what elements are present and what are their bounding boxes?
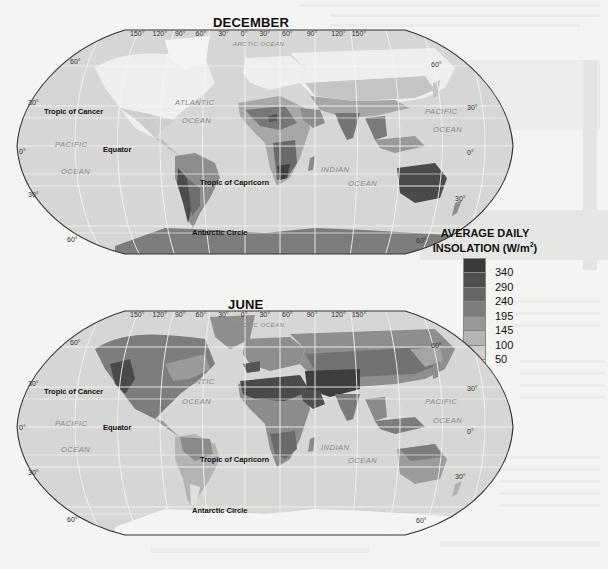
june-atlantic-label: ATLANTIC <box>175 377 215 386</box>
june-tropic-of-cancer-label: Tropic of Cancer <box>44 387 103 396</box>
december-atlantic-ocean-label: OCEAN <box>182 116 211 125</box>
june-lat-0-right: 0° <box>467 428 474 435</box>
december-equator-label: Equator <box>103 145 131 154</box>
june-equator-label: Equator <box>103 423 131 432</box>
june-longitude-labels: 150°120°90°60°30°0°30°60°90°120°150° <box>130 311 366 318</box>
june-pacific-east-label: PACIFIC <box>425 397 458 406</box>
december-lat-60n-right: 60° <box>431 61 442 68</box>
june-antarctic-circle-label: Antarctic Circle <box>192 506 247 515</box>
december-lat-30n-right: 30° <box>467 104 478 111</box>
december-lat-60s-left: 60° <box>67 236 78 243</box>
june-lat-30n-right: 30° <box>467 385 478 392</box>
december-pacific-east-label: PACIFIC <box>425 107 458 116</box>
june-tropic-of-capricorn-label: Tropic of Capricorn <box>200 455 269 464</box>
june-lat-0-left: 0° <box>19 424 26 431</box>
december-map: 150°120°90°60°30°0°30°60°90°120°150° 60°… <box>15 28 515 256</box>
june-indian-ocean-label: OCEAN <box>348 456 377 465</box>
legend-swatch-above-340 <box>463 258 486 273</box>
june-map: 150°120°90°60°30°0°30°60°90°120°150° 60°… <box>15 309 515 537</box>
june-arctic-ocean-label: ARCTIC OCEAN <box>233 322 284 328</box>
december-atlantic-label: ATLANTIC <box>175 98 215 107</box>
december-pacific-west-label: PACIFIC <box>55 140 88 149</box>
june-lat-30s-right: 30° <box>455 473 466 480</box>
december-arctic-ocean-label: ARCTIC OCEAN <box>233 41 284 47</box>
june-atlantic-ocean-label: OCEAN <box>182 397 211 406</box>
legend-swatch-290-340 <box>463 272 486 287</box>
december-tropic-of-capricorn-label: Tropic of Capricorn <box>200 178 269 187</box>
june-pacific-west-ocean-label: OCEAN <box>61 445 90 454</box>
june-lat-60n-right: 60° <box>431 342 442 349</box>
december-longitude-labels: 150°120°90°60°30°0°30°60°90°120°150° <box>130 30 366 37</box>
legend-title: AVERAGE DAILY INSOLATION (W/m2) <box>430 227 540 254</box>
june-pacific-east-ocean-label: OCEAN <box>433 416 462 425</box>
december-pacific-west-ocean-label: OCEAN <box>61 167 90 176</box>
december-antarctic-circle-label: Antarctic Circle <box>192 228 247 237</box>
legend-tick-290: 290 <box>495 281 513 293</box>
december-indian-label: INDIAN <box>321 165 349 174</box>
june-lat-30s-left: 30° <box>28 469 39 476</box>
june-lat-60s-left: 60° <box>67 516 78 523</box>
december-indian-ocean-label: OCEAN <box>348 179 377 188</box>
june-indian-label: INDIAN <box>321 443 349 452</box>
june-lat-30n-left: 30° <box>28 380 39 387</box>
june-lat-60s-right: 60° <box>416 517 427 524</box>
june-lat-60n-left: 60° <box>70 339 81 346</box>
legend-tick-240: 240 <box>495 295 513 307</box>
december-lat-30s-left: 30° <box>28 191 39 198</box>
december-lat-30s-right: 30° <box>455 195 466 202</box>
december-lat-60s-right: 60° <box>416 237 427 244</box>
december-lat-0-right: 0° <box>467 149 474 156</box>
december-pacific-east-ocean-label: OCEAN <box>433 125 462 134</box>
legend-swatch-240-290 <box>463 287 486 302</box>
december-tropic-of-cancer-label: Tropic of Cancer <box>44 107 103 116</box>
december-lat-30n-left: 30° <box>28 99 39 106</box>
december-lat-0-left: 0° <box>19 148 26 155</box>
june-pacific-west-label: PACIFIC <box>55 419 88 428</box>
december-lat-60n-left: 60° <box>70 58 81 65</box>
legend-tick-340: 340 <box>495 266 513 278</box>
legend-title-line2: INSOLATION (W/m2) <box>430 239 540 254</box>
legend-title-line1: AVERAGE DAILY <box>430 227 540 239</box>
